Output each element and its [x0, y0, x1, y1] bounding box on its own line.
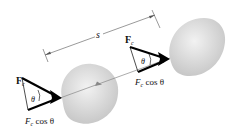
force-label-right: Fc: [125, 34, 134, 46]
component-label-left: Fc cos θ: [24, 116, 54, 127]
body-right: [169, 18, 225, 76]
work-diagram: s Fc θ Fc cos θ Fc θ Fc cos θ: [0, 0, 238, 135]
angle-label-right: θ: [141, 57, 145, 66]
body-left: [61, 64, 118, 124]
displacement-label: s: [96, 29, 100, 40]
angle-label-left: θ: [31, 95, 35, 104]
force-vector-right: [130, 47, 170, 72]
component-label-right: Fc cos θ: [134, 77, 164, 88]
force-vector-left: [22, 78, 62, 110]
displacement-dimension: s: [43, 10, 160, 62]
force-label-left: Fc: [16, 75, 25, 87]
